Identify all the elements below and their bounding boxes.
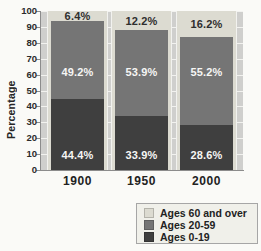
segment-value-label: 28.6% [172,149,241,161]
bar-segment-ages-0-19 [180,125,233,170]
column-band: 44.4%49.2%6.4% [47,11,108,170]
legend-swatch-icon [144,208,154,218]
segment-value-label: 44.4% [43,149,112,161]
segment-value-label: 12.2% [107,15,176,27]
y-tick-label: 20 [6,133,37,143]
legend-label: Ages 0-19 [160,231,210,243]
y-tick-label: 60 [6,70,37,80]
segment-value-label: 33.9% [107,149,176,161]
stacked-bar-1900: 44.4%49.2%6.4% [51,11,104,170]
stacked-bar-1950: 33.9%53.9%12.2% [115,11,168,170]
segment-value-label: 55.2% [172,66,241,78]
y-tick-label: 50 [6,86,37,96]
bar-segment-ages-20-59 [180,37,233,125]
y-tick-label: 70 [6,54,37,64]
y-tick-label: 80 [6,38,37,48]
y-tick-label: 0 [6,165,37,175]
legend-item: Ages 20-59 [144,219,257,231]
column-band: 33.9%53.9%12.2% [111,11,172,170]
y-axis-line [40,11,41,171]
y-tick-label: 90 [6,22,37,32]
x-axis-line [40,170,244,171]
legend-swatch-icon [144,232,154,242]
legend-item: Ages 0-19 [144,231,257,243]
segment-value-label: 6.4% [43,10,112,22]
plot-area: 44.4%49.2%6.4%33.9%53.9%12.2%28.6%55.2%1… [41,11,243,170]
stacked-bar-2000: 28.6%55.2%16.2% [180,11,233,170]
legend-swatch-icon [144,220,154,230]
x-category-label: 1900 [43,174,113,188]
y-tick-label: 10 [6,149,37,159]
legend-label: Ages 60 and over [160,207,247,219]
segment-value-label: 53.9% [107,66,176,78]
x-category-label: 2000 [172,174,242,188]
bar-segment-ages-20-59 [51,21,104,99]
x-category-label: 1950 [107,174,177,188]
y-tick-label: 100 [6,6,37,16]
y-tick-label: 30 [6,117,37,127]
y-tick-label: 40 [6,101,37,111]
segment-value-label: 49.2% [43,66,112,78]
age-distribution-stacked-bar-chart: Percentage 44.4%49.2%6.4%33.9%53.9%12.2%… [0,0,261,251]
legend-item: Ages 60 and over [144,207,257,219]
bar-segment-ages-0-19 [115,116,168,170]
legend: Ages 60 and overAges 20-59Ages 0-19 [136,203,258,244]
segment-value-label: 16.2% [172,18,241,30]
legend-label: Ages 20-59 [160,219,215,231]
column-band: 28.6%55.2%16.2% [176,11,237,170]
